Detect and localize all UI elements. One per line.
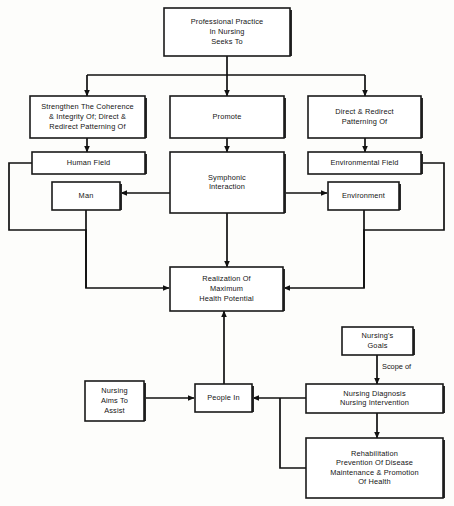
node-label-line: Man	[79, 191, 94, 200]
node-label-line: Redirect Patterning Of	[49, 122, 126, 131]
node-label-line: Of Health	[358, 477, 391, 486]
flowchart-canvas: Professional PracticeIn NursingSeeks ToS…	[0, 0, 454, 506]
edge-rehabilitation-to-people	[280, 398, 306, 468]
edge-labels-layer: Scope of	[382, 362, 412, 371]
node-label-line: Seeks To	[211, 37, 242, 46]
node-label-line: Nursing Intervention	[340, 398, 409, 407]
node-label-line: & Integrity Of; Direct &	[49, 112, 126, 121]
node-label-line: In Nursing	[209, 27, 244, 36]
node-label-line: Maximum	[210, 284, 243, 293]
node-nursings_goals[interactable]: Nursing'sGoals	[342, 327, 415, 355]
node-environment[interactable]: Environment	[328, 182, 401, 210]
node-label-line: People In	[207, 393, 240, 402]
nodes-layer: Professional PracticeIn NursingSeeks ToS…	[30, 8, 445, 498]
node-rehabilitation[interactable]: RehabilitationPrevention Of DiseaseMaint…	[306, 438, 445, 498]
node-nursing_aims[interactable]: NursingAims ToAssist	[85, 381, 146, 421]
node-man[interactable]: Man	[52, 182, 122, 210]
edge-label-scope_of: Scope of	[382, 362, 412, 371]
node-symphonic[interactable]: SymphonicInteraction	[170, 152, 286, 213]
node-label-line: Symphonic	[208, 173, 246, 182]
node-label-line: Assist	[104, 406, 125, 415]
node-label-line: Environmental Field	[330, 158, 398, 167]
node-label-line: Rehabilitation	[351, 449, 398, 458]
node-label-line: Nursing's	[362, 331, 394, 340]
node-professional_practice[interactable]: Professional PracticeIn NursingSeeks To	[164, 8, 292, 56]
node-label-line: Aims To	[101, 396, 128, 405]
node-human_field[interactable]: Human Field	[32, 152, 147, 174]
node-label-line: Professional Practice	[191, 17, 264, 26]
node-label-line: Patterning Of	[342, 117, 388, 126]
node-realization[interactable]: Realization OfMaximumHealth Potential	[170, 267, 285, 311]
node-label-line: Prevention Of Disease	[336, 458, 413, 467]
node-direct_redirect[interactable]: Direct & RedirectPatterning Of	[308, 96, 423, 138]
node-label-line: Human Field	[67, 158, 111, 167]
node-people_in[interactable]: People In	[195, 384, 254, 412]
edge-environment-down-to-realization	[284, 210, 364, 288]
node-environmental_field[interactable]: Environmental Field	[308, 152, 423, 174]
node-label-line: Strengthen The Coherence	[41, 102, 134, 111]
node-label-line: Realization Of	[202, 274, 251, 283]
node-nursing_diagnosis[interactable]: Nursing DiagnosisNursing Intervention	[306, 384, 445, 413]
node-strengthen[interactable]: Strengthen The Coherence& Integrity Of; …	[30, 96, 147, 138]
node-label-line: Nursing	[101, 386, 128, 395]
edge-man-down-to-realization	[86, 210, 169, 288]
node-label-line: Environment	[342, 191, 385, 200]
node-label-line: Interaction	[209, 182, 245, 191]
node-label-line: Maintenance & Promotion	[330, 468, 419, 477]
node-label-line: Nursing Diagnosis	[343, 389, 406, 398]
node-label-line: Goals	[367, 341, 387, 350]
node-label-line: Direct & Redirect	[335, 107, 393, 116]
node-label-line: Promote	[213, 112, 242, 121]
node-promote[interactable]: Promote	[170, 96, 286, 138]
node-label-line: Health Potential	[199, 294, 254, 303]
